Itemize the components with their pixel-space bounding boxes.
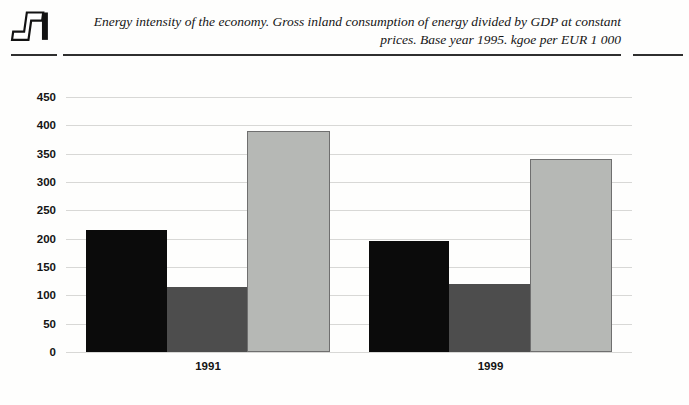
bar-black-1991 — [86, 230, 167, 352]
y-tick-label: 350 — [37, 147, 56, 161]
bar-dark-gray-1999 — [449, 284, 529, 352]
y-tick-label: 50 — [43, 317, 56, 331]
y-tick-label: 450 — [37, 90, 56, 104]
x-axis-label: 1991 — [86, 360, 330, 372]
publication-logo-icon — [10, 7, 52, 49]
chart-title: Energy intensity of the economy. Gross i… — [76, 13, 621, 49]
separator-line-right — [633, 54, 683, 56]
separator-line-main — [63, 54, 621, 56]
chart-title-line-1: Energy intensity of the economy. Gross i… — [76, 13, 621, 31]
plot-area — [66, 97, 632, 352]
y-tick-label: 0 — [50, 345, 56, 359]
separator-line-left — [11, 54, 57, 56]
bar-dark-gray-1991 — [167, 287, 248, 352]
y-tick-label: 100 — [37, 288, 56, 302]
y-axis-labels: 050100150200250300350400450 — [0, 97, 56, 352]
y-tick-label: 150 — [37, 260, 56, 274]
bar-light-gray-1991 — [247, 131, 330, 352]
y-tick-label: 300 — [37, 175, 56, 189]
page: Energy intensity of the economy. Gross i… — [0, 0, 689, 405]
bar-light-gray-1999 — [530, 159, 612, 352]
x-axis-label: 1999 — [369, 360, 612, 372]
bar-group — [86, 97, 330, 352]
y-tick-label: 200 — [37, 232, 56, 246]
y-tick-label: 250 — [37, 203, 56, 217]
bar-black-1999 — [369, 241, 449, 352]
bar-group — [369, 97, 612, 352]
y-tick-label: 400 — [37, 118, 56, 132]
chart-title-line-2: prices. Base year 1995. kgoe per EUR 1 0… — [76, 31, 621, 49]
gridline — [66, 352, 632, 353]
